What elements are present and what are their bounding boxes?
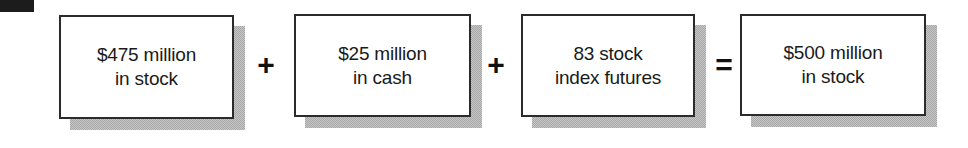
plus-operator-2: + bbox=[479, 50, 513, 80]
term-box-1: $475 million in stock bbox=[59, 15, 234, 119]
term-box-4-label: $500 million in stock bbox=[784, 41, 883, 88]
term-box-1-label: $475 million in stock bbox=[97, 43, 196, 90]
term-box-4: $500 million in stock bbox=[740, 14, 926, 116]
term-box-2-label: $25 million in cash bbox=[338, 42, 427, 89]
term-box-3: 83 stock index futures bbox=[521, 14, 695, 117]
term-box-2: $25 million in cash bbox=[294, 14, 471, 117]
equation-diagram: $475 million in stock + $25 million in c… bbox=[0, 0, 968, 148]
plus-operator-1: + bbox=[249, 50, 283, 80]
equals-operator: = bbox=[706, 50, 742, 80]
scan-artifact-block bbox=[0, 0, 34, 12]
term-box-3-label: 83 stock index futures bbox=[555, 42, 661, 89]
